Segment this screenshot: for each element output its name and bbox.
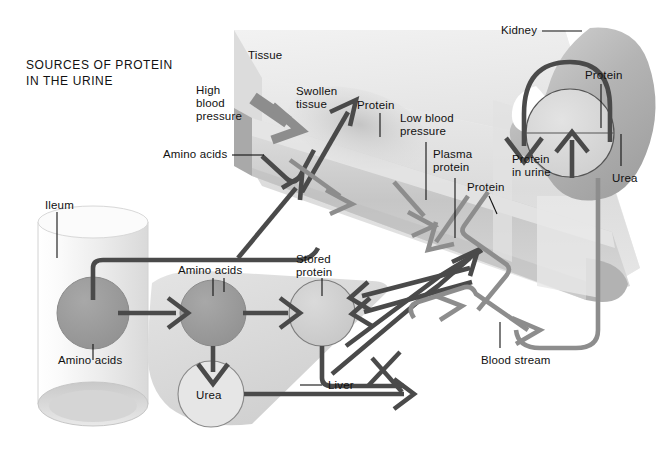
- diagram-canvas: SOURCES OF PROTEIN IN THE URINE Tissue H…: [0, 0, 667, 466]
- label-protein-tissue: Protein: [357, 99, 395, 112]
- label-ileum: Ileum: [45, 199, 74, 212]
- label-amino-acids-ileum: Amino acids: [58, 354, 122, 367]
- label-urea-liver: Urea: [196, 389, 222, 402]
- label-protein-plasma: Protein: [467, 181, 505, 194]
- label-stored-protein: Stored protein: [296, 253, 332, 279]
- label-plasma-protein: Plasma protein: [433, 148, 472, 174]
- label-liver: Liver: [328, 379, 354, 392]
- label-high-blood-pressure: High blood pressure: [196, 84, 242, 123]
- label-amino-acids-tissue: Amino acids: [163, 148, 227, 161]
- label-urea-kidney: Urea: [612, 172, 638, 185]
- figure-title-line1: SOURCES OF PROTEIN: [26, 58, 173, 73]
- label-low-blood-pressure: Low blood pressure: [400, 112, 454, 138]
- arrowhead-bloodstream-mid: [436, 296, 462, 320]
- label-protein-kidney: Protein: [585, 69, 623, 82]
- figure-title-line2: IN THE URINE: [26, 74, 113, 89]
- label-tissue: Tissue: [248, 49, 282, 62]
- label-swollen-tissue: Swollen tissue: [296, 85, 337, 111]
- label-protein-in-urine: Protein in urine: [512, 153, 551, 179]
- ileum-lumen: [49, 390, 137, 422]
- label-blood-stream: Blood stream: [481, 354, 551, 367]
- flow-liver-to-tissue: [238, 188, 296, 258]
- tissue-panel-right: [537, 196, 600, 298]
- label-amino-acids-liver: Amino acids: [178, 264, 242, 277]
- label-kidney: Kidney: [501, 24, 537, 37]
